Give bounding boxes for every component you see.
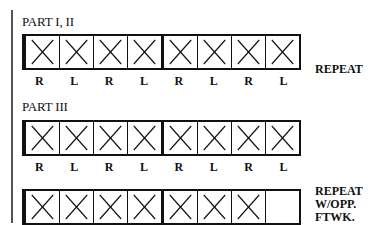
note-line: FTWK. bbox=[315, 211, 363, 224]
measure-row-part-1-2 bbox=[22, 34, 301, 70]
beat-cell-x bbox=[232, 36, 266, 68]
footwork-label: R bbox=[92, 160, 127, 175]
beat-cell-x bbox=[232, 191, 266, 223]
beat-cell-x bbox=[266, 36, 299, 68]
footwork-label: R bbox=[162, 74, 197, 89]
footwork-label: R bbox=[22, 160, 57, 175]
beat-cell-x bbox=[94, 191, 128, 223]
measure-row-repeat-opposite bbox=[22, 189, 301, 225]
beat-cell-x bbox=[266, 122, 299, 154]
beat-cell-x bbox=[198, 122, 232, 154]
beat-cell-x bbox=[128, 36, 164, 68]
beat-cell-x bbox=[128, 191, 164, 223]
beat-cell-x bbox=[128, 122, 164, 154]
footwork-label: L bbox=[57, 74, 92, 89]
footwork-label: L bbox=[196, 74, 231, 89]
footwork-row-part-3: R L R L R L R L bbox=[22, 160, 301, 175]
beat-cell-x bbox=[26, 122, 60, 154]
beat-cell-x bbox=[26, 36, 60, 68]
beat-cell-empty bbox=[266, 191, 299, 223]
footwork-label: R bbox=[231, 74, 266, 89]
beat-cell-x bbox=[60, 122, 94, 154]
footwork-label: L bbox=[127, 74, 162, 89]
footwork-label: L bbox=[266, 74, 301, 89]
footwork-label: R bbox=[231, 160, 266, 175]
left-margin-rule bbox=[11, 10, 13, 223]
footwork-label: L bbox=[196, 160, 231, 175]
beat-cell-x bbox=[164, 191, 198, 223]
part-label-1-2: PART I, II bbox=[22, 14, 74, 30]
repeat-opposite-note: REPEAT W/OPP. FTWK. bbox=[315, 185, 363, 224]
beat-cell-x bbox=[198, 36, 232, 68]
footwork-label: L bbox=[127, 160, 162, 175]
beat-cell-x bbox=[198, 191, 232, 223]
measure-row-part-3 bbox=[22, 120, 301, 156]
beat-cell-x bbox=[94, 36, 128, 68]
footwork-label: R bbox=[162, 160, 197, 175]
beat-cell-x bbox=[94, 122, 128, 154]
beat-cell-x bbox=[232, 122, 266, 154]
beat-cell-x bbox=[164, 36, 198, 68]
footwork-row-part-1-2: R L R L R L R L bbox=[22, 74, 301, 89]
beat-cell-x bbox=[26, 191, 60, 223]
repeat-note: REPEAT bbox=[315, 63, 363, 76]
footwork-label: R bbox=[22, 74, 57, 89]
beat-cell-x bbox=[164, 122, 198, 154]
footwork-label: R bbox=[92, 74, 127, 89]
part-label-3: PART III bbox=[22, 99, 68, 115]
beat-cell-x bbox=[60, 191, 94, 223]
footwork-label: L bbox=[266, 160, 301, 175]
footwork-label: L bbox=[57, 160, 92, 175]
beat-cell-x bbox=[60, 36, 94, 68]
